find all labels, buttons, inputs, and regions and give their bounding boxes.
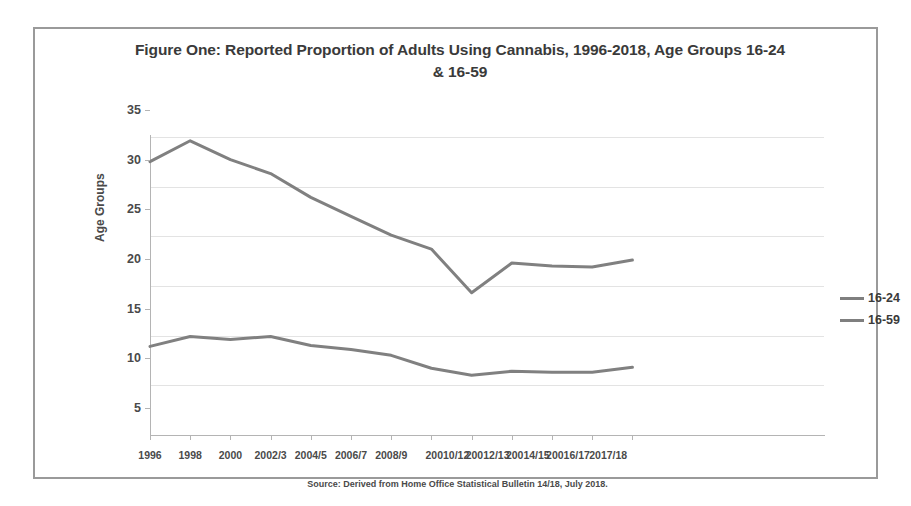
x-axis-tick [552,435,553,440]
legend-label: 16-24 [868,291,900,305]
y-axis-tick [145,209,150,210]
x-axis-tick [230,435,231,440]
y-axis-tick-label: 15 [111,302,141,316]
x-axis-tick-label: 2002/3 [255,449,287,461]
y-axis-tick [145,408,150,409]
gridline [151,385,824,386]
legend-swatch-icon [840,319,864,322]
x-axis-tick [190,435,191,440]
x-axis-tick [150,435,151,440]
y-axis-tick [145,309,150,310]
gridline [151,137,824,138]
x-axis-tick [311,435,312,440]
x-axis-tick [351,435,352,440]
x-axis-tick-label: 20016/17 [546,449,590,461]
x-axis-tick-label: 2017/18 [589,449,627,461]
x-axis-tick [391,435,392,440]
y-axis-tick-label: 10 [111,351,141,365]
x-axis-tick-label: 2008/9 [375,449,407,461]
gridline [151,236,824,237]
y-axis-tick-label: 20 [111,252,141,266]
y-axis-tick [145,110,150,111]
y-axis-tick-label: 35 [111,103,141,117]
x-axis-line [150,435,825,436]
figure-frame: Figure One: Reported Proportion of Adult… [33,27,878,479]
legend-swatch-icon [840,297,864,300]
source-note: Source: Derived from Home Office Statist… [35,479,880,489]
x-axis-tick [592,435,593,440]
x-axis-tick [512,435,513,440]
x-axis-tick [271,435,272,440]
y-axis-tick [145,259,150,260]
x-axis-tick-label: 2006/7 [335,449,367,461]
y-axis-title: Age Groups [93,173,107,242]
x-axis-tick-label: 2000 [219,449,242,461]
x-axis-tick [632,435,633,440]
y-axis-tick-label: 30 [111,153,141,167]
x-axis-tick-label: 1996 [138,449,161,461]
x-axis-tick-label: 20012/13 [466,449,510,461]
plot-area [151,137,824,435]
x-axis-tick-label: 20010/12 [425,449,469,461]
gridline [151,187,824,188]
y-axis-tick-labels: 5101520253035 [111,29,141,506]
x-axis-tick-label: 1998 [179,449,202,461]
x-axis-tick [431,435,432,440]
x-axis-tick-label: 2004/5 [295,449,327,461]
legend-item-16-24[interactable]: 16-24 [840,287,908,309]
x-axis-tick [472,435,473,440]
gridline [151,336,824,337]
x-axis-tick-label: 20014/15 [506,449,550,461]
y-axis-tick [145,358,150,359]
chart-legend: 16-24 16-59 [840,287,908,331]
legend-item-16-59[interactable]: 16-59 [840,309,908,331]
y-axis-tick-label: 5 [111,401,141,415]
gridline [151,286,824,287]
y-axis-tick-label: 25 [111,202,141,216]
y-axis-tick [145,160,150,161]
chart-title: Figure One: Reported Proportion of Adult… [130,39,790,84]
legend-label: 16-59 [868,313,900,327]
